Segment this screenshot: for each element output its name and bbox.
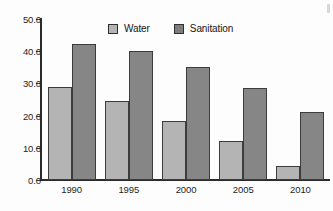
bar-group-1990 xyxy=(43,19,100,180)
bar-groups xyxy=(43,19,329,180)
bar-sanitation-1990 xyxy=(72,44,96,180)
y-axis-tick-label: 50.0 xyxy=(7,14,41,25)
bar-group-2005 xyxy=(215,19,272,180)
bar-water-1995 xyxy=(105,101,129,180)
y-axis-tick-label: 10.0 xyxy=(7,142,41,153)
bar-group-2000 xyxy=(157,19,214,180)
bar-sanitation-2005 xyxy=(243,88,267,180)
bar-water-2010 xyxy=(276,166,300,180)
y-axis-tick-label: 30.0 xyxy=(7,78,41,89)
bar-group-1995 xyxy=(100,19,157,180)
y-axis-tick-label: 0.0 xyxy=(7,175,41,186)
y-axis-tick-label: 20.0 xyxy=(7,110,41,121)
x-axis-label-2000: 2000 xyxy=(157,184,214,195)
x-axis-labels: 19901995200020052010 xyxy=(43,184,329,195)
bar-sanitation-2000 xyxy=(186,67,210,180)
bar-water-2005 xyxy=(219,141,243,180)
x-axis-label-1990: 1990 xyxy=(43,184,100,195)
y-axis-line xyxy=(40,18,42,181)
bar-sanitation-1995 xyxy=(129,51,153,180)
scan-artifact xyxy=(327,4,330,13)
bar-water-2000 xyxy=(162,121,186,180)
bar-chart: 0.010.020.030.040.050.0 Water Sanitation… xyxy=(0,0,333,211)
bar-water-1990 xyxy=(48,87,72,180)
x-axis-label-2005: 2005 xyxy=(215,184,272,195)
x-axis-label-2010: 2010 xyxy=(272,184,329,195)
x-axis-label-1995: 1995 xyxy=(100,184,157,195)
bar-sanitation-2010 xyxy=(300,112,324,180)
bar-group-2010 xyxy=(272,19,329,180)
y-axis-tick-group: 0.010.020.030.040.050.0 xyxy=(0,0,41,211)
y-axis-tick-label: 40.0 xyxy=(7,46,41,57)
